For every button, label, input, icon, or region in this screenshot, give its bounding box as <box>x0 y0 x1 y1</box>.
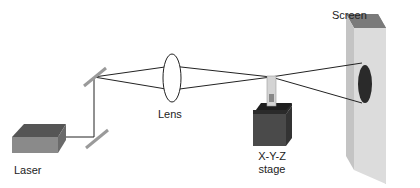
lens-label: Lens <box>158 108 182 121</box>
stage-label-line2: stage <box>254 163 290 176</box>
optical-setup-diagram: Laser Lens X-Y-Z stage Screen <box>0 0 420 188</box>
projected-spot <box>358 65 372 103</box>
laser-box <box>12 124 66 153</box>
stage-label-line1: X-Y-Z <box>254 150 290 163</box>
laser-label: Laser <box>14 164 42 177</box>
laser-beam <box>58 63 362 137</box>
lens-icon <box>163 54 181 102</box>
screen-label: Screen <box>332 9 367 22</box>
sample-holder <box>267 76 276 106</box>
upper-mirror-icon <box>84 68 106 86</box>
lower-mirror-icon <box>86 130 108 148</box>
xyz-stage <box>253 103 292 146</box>
